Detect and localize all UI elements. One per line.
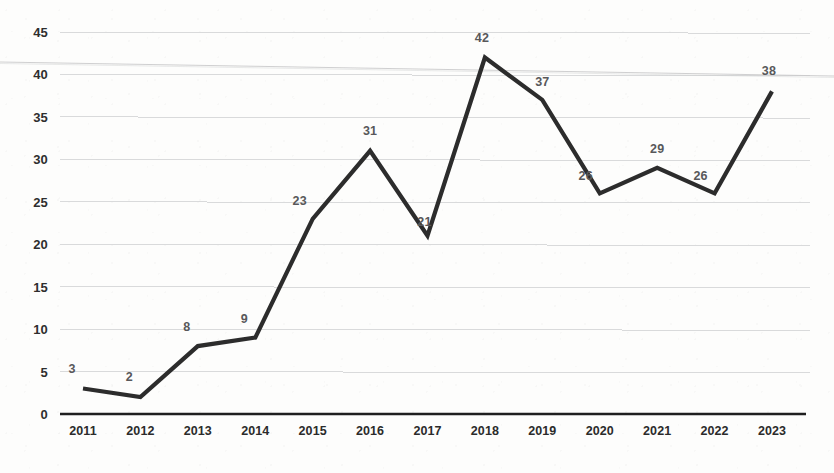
data-point-label: 31 bbox=[363, 124, 377, 138]
data-point-label: 9 bbox=[241, 312, 248, 326]
x-axis-tick-label: 2014 bbox=[241, 424, 269, 438]
data-point-label: 3 bbox=[68, 362, 75, 376]
x-axis-tick-label: 2019 bbox=[528, 424, 556, 438]
x-axis-tick-label: 2020 bbox=[586, 424, 614, 438]
x-axis-tick-label: 2016 bbox=[356, 424, 384, 438]
gridline bbox=[60, 287, 810, 288]
data-point-label: 38 bbox=[762, 64, 776, 78]
y-axis-tick-label: 10 bbox=[33, 322, 48, 337]
x-axis-tick-label: 2023 bbox=[758, 424, 786, 438]
x-axis-tick-label: 2021 bbox=[643, 424, 671, 438]
y-axis-tick-label: 45 bbox=[33, 25, 48, 40]
y-axis-tick-label: 40 bbox=[33, 67, 48, 82]
y-axis-tick-label: 35 bbox=[33, 110, 48, 125]
x-axis-tick-label: 2022 bbox=[700, 424, 728, 438]
data-point-label: 42 bbox=[475, 31, 489, 45]
data-point-label: 26 bbox=[693, 169, 707, 183]
data-point-label: 2 bbox=[126, 370, 133, 384]
data-point-label: 29 bbox=[650, 142, 664, 156]
y-axis-tick-label: 15 bbox=[33, 280, 48, 295]
gridline bbox=[60, 159, 810, 160]
gridlines-group bbox=[60, 32, 810, 373]
crease-line-upper bbox=[0, 62, 834, 76]
gridline bbox=[60, 117, 810, 118]
gridline bbox=[60, 244, 810, 245]
data-point-label: 37 bbox=[535, 75, 549, 89]
x-axis-tick-label: 2013 bbox=[184, 424, 212, 438]
x-axis-tick-label: 2017 bbox=[413, 424, 441, 438]
chart-screenshot: 051015202530354045 201120122013201420152… bbox=[0, 0, 834, 473]
x-axis-tick-labels: 2011201220132014201520162017201820192020… bbox=[69, 424, 786, 438]
x-axis-tick-label: 2018 bbox=[471, 424, 499, 438]
gridline bbox=[60, 329, 810, 330]
gridline bbox=[60, 32, 810, 33]
gridline bbox=[60, 372, 810, 373]
x-axis-tick-label: 2011 bbox=[69, 424, 97, 438]
y-axis-tick-label: 20 bbox=[33, 237, 48, 252]
y-axis-tick-label: 5 bbox=[41, 365, 48, 380]
data-point-label: 21 bbox=[417, 215, 431, 229]
line-chart: 051015202530354045 201120122013201420152… bbox=[0, 0, 834, 473]
x-axis-tick-label: 2015 bbox=[299, 424, 327, 438]
data-point-label: 23 bbox=[293, 194, 307, 208]
x-axis-tick-label: 2012 bbox=[126, 424, 154, 438]
y-axis-tick-label: 0 bbox=[41, 407, 48, 422]
data-labels-group: 3289233121423726292638 bbox=[68, 31, 776, 384]
data-point-label: 26 bbox=[579, 169, 593, 183]
y-axis-tick-label: 25 bbox=[33, 195, 48, 210]
data-point-label: 8 bbox=[183, 320, 190, 334]
gridline bbox=[60, 202, 810, 203]
y-axis-tick-label: 30 bbox=[33, 152, 48, 167]
y-axis-tick-labels: 051015202530354045 bbox=[33, 25, 48, 422]
